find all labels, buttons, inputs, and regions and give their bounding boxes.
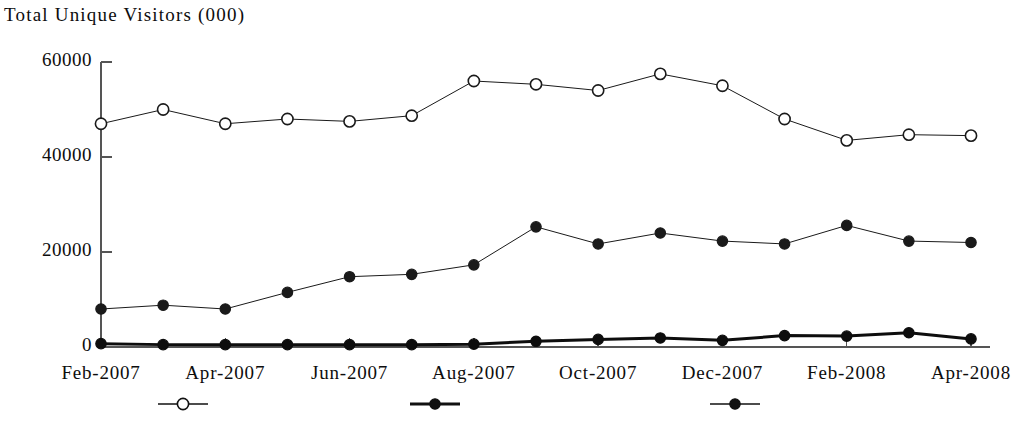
data-point-marker — [158, 104, 169, 115]
data-point-marker — [469, 339, 479, 349]
data-point-marker — [530, 79, 541, 90]
chart-legend — [0, 392, 1007, 420]
data-point-marker — [344, 339, 354, 349]
x-axis-tick-label: Dec-2007 — [657, 362, 787, 384]
data-point-marker — [842, 220, 852, 230]
data-point-marker — [779, 239, 789, 249]
data-point-marker — [407, 339, 417, 349]
legend-marker — [700, 392, 770, 416]
legend-item[interactable] — [700, 392, 770, 416]
data-point-marker — [904, 236, 914, 246]
series-group — [95, 68, 976, 350]
data-point-marker — [220, 118, 231, 129]
x-axis-tick-label: Aug-2007 — [409, 362, 539, 384]
data-point-marker — [406, 110, 417, 121]
data-point-marker — [158, 300, 168, 310]
data-point-marker — [841, 135, 852, 146]
data-point-marker — [158, 339, 168, 349]
chart-series — [96, 220, 976, 314]
data-point-marker — [779, 330, 789, 340]
y-axis-tick-label: 0 — [0, 334, 92, 356]
data-point-marker — [966, 237, 976, 247]
legend-item[interactable] — [148, 392, 218, 416]
data-point-marker — [407, 269, 417, 279]
x-axis-tick-label: Jun-2007 — [285, 362, 415, 384]
data-point-marker — [220, 304, 230, 314]
data-point-marker — [531, 336, 541, 346]
x-axis-tick-label: Apr-2007 — [160, 362, 290, 384]
data-point-marker — [344, 116, 355, 127]
data-point-marker — [655, 333, 665, 343]
data-point-marker — [842, 331, 852, 341]
data-point-marker — [593, 334, 603, 344]
data-point-marker — [282, 113, 293, 124]
data-point-marker — [904, 328, 914, 338]
data-point-marker — [717, 80, 728, 91]
x-axis-tick-label: Apr-2008 — [906, 362, 1015, 384]
data-point-marker — [655, 68, 666, 79]
series-line — [101, 225, 971, 309]
y-axis-tick-label: 40000 — [0, 144, 92, 166]
x-axis-tick-label: Oct-2007 — [533, 362, 663, 384]
x-axis-tick-label: Feb-2007 — [36, 362, 166, 384]
data-point-marker — [469, 260, 479, 270]
data-point-marker — [717, 236, 727, 246]
data-point-marker — [282, 287, 292, 297]
x-axis-tick-label: Feb-2008 — [782, 362, 912, 384]
data-point-marker — [903, 129, 914, 140]
data-point-marker — [966, 334, 976, 344]
data-point-marker — [717, 335, 727, 345]
data-point-marker — [282, 339, 292, 349]
axes-group — [101, 62, 990, 347]
data-point-marker — [220, 339, 230, 349]
data-point-marker — [468, 75, 479, 86]
legend-item[interactable] — [400, 392, 470, 416]
chart-series — [95, 68, 976, 146]
y-axis-tick-label: 60000 — [0, 49, 92, 71]
data-point-marker — [96, 304, 106, 314]
data-point-marker — [593, 85, 604, 96]
data-point-marker — [655, 228, 665, 238]
legend-marker — [148, 392, 218, 416]
data-point-marker — [96, 338, 106, 348]
data-point-marker — [779, 113, 790, 124]
y-axis-tick-label: 20000 — [0, 239, 92, 261]
legend-marker — [400, 392, 470, 416]
data-point-marker — [593, 239, 603, 249]
data-point-marker — [344, 272, 354, 282]
data-point-marker — [531, 222, 541, 232]
data-point-marker — [965, 130, 976, 141]
data-point-marker — [95, 118, 106, 129]
